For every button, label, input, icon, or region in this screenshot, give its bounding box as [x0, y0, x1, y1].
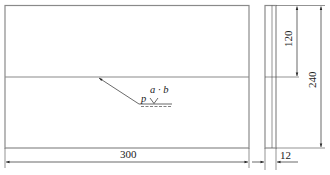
weld-leader-arrow	[99, 78, 139, 104]
weld-symbol: a · b p	[99, 78, 172, 107]
weld-left-label: p	[140, 93, 146, 104]
weld-top-label: a · b	[150, 84, 168, 95]
width-dimension: 300	[5, 148, 249, 168]
v-groove-icon	[150, 98, 158, 104]
thickness-dimension: 12	[252, 148, 298, 170]
thickness-dimension-value: 12	[280, 149, 291, 161]
front-view	[5, 6, 249, 149]
width-dimension-value: 300	[120, 148, 137, 160]
total-height-dimension: 240	[306, 7, 321, 148]
weld-drawing: a · b p 300 120 240 12	[0, 0, 330, 175]
half-height-dimension: 120	[282, 7, 297, 77]
total-height-dimension-value: 240	[306, 71, 318, 88]
half-height-dimension-value: 120	[282, 30, 294, 47]
